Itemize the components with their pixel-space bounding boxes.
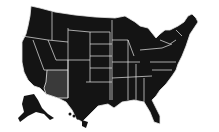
state-alaska[interactable]	[18, 94, 54, 122]
us-map	[0, 0, 219, 132]
state-arizona[interactable]	[44, 70, 68, 98]
